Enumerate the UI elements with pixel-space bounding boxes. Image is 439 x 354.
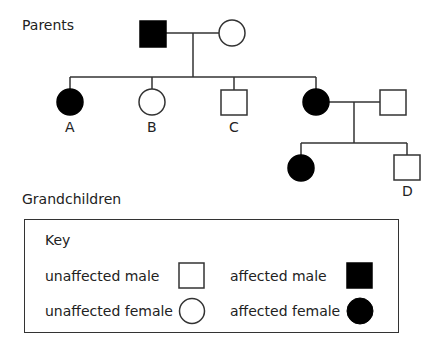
- key-label-unaffected-female: unaffected female: [45, 303, 173, 319]
- key-label-affected-female: affected female: [230, 303, 340, 319]
- unaffected-male-D-icon: [394, 155, 420, 180]
- label-B: B: [147, 119, 157, 135]
- unaffected-male-son-in-law-icon: [380, 90, 406, 115]
- key-unaffected-male-icon: [178, 262, 206, 290]
- unaffected-male-C-icon: [221, 90, 247, 115]
- label-A: A: [65, 119, 75, 135]
- key-label-affected-male: affected male: [230, 268, 327, 284]
- legend-key-box: Key unaffected male affected male unaffe…: [24, 219, 399, 333]
- unaffected-female-B-icon: [139, 89, 165, 115]
- affected-male-father-icon: [140, 21, 166, 47]
- affected-female-daughter-icon: [303, 89, 329, 115]
- key-unaffected-female-icon: [178, 297, 206, 325]
- label-C: C: [229, 119, 239, 135]
- key-affected-male-icon: [346, 262, 374, 290]
- key-title: Key: [45, 232, 70, 248]
- affected-female-A-icon: [57, 89, 83, 115]
- affected-female-granddaughter-icon: [288, 155, 314, 181]
- unaffected-female-mother-icon: [219, 20, 245, 46]
- label-D: D: [402, 183, 413, 199]
- key-label-unaffected-male: unaffected male: [45, 268, 159, 284]
- key-affected-female-icon: [346, 297, 374, 325]
